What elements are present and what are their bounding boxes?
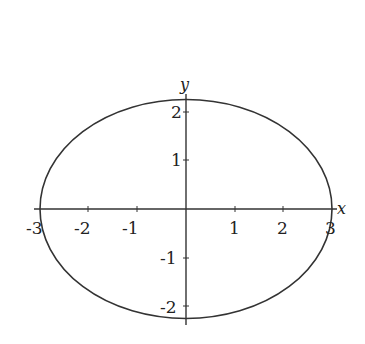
y-tick-label: 2 (171, 102, 182, 122)
x-tick-label: 2 (277, 218, 288, 238)
x-tick-label: 1 (229, 218, 240, 238)
x-tick-label: -3 (26, 218, 43, 238)
y-tick-label: 1 (171, 150, 182, 170)
ellipse-plot: -3 -2 -1 1 2 3 2 1 -1 -2 x y (0, 0, 365, 344)
y-tick-label: -1 (160, 248, 177, 268)
x-tick-label: 3 (325, 218, 336, 238)
y-axis-label: y (179, 75, 190, 94)
x-axis-label: x (337, 199, 346, 218)
y-tick-label: -2 (160, 297, 177, 317)
x-tick-label: -1 (122, 218, 139, 238)
x-tick-label: -2 (74, 218, 91, 238)
